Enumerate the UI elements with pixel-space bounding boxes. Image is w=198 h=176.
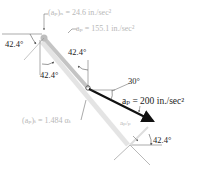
angle-30: 30° bbox=[128, 77, 140, 86]
acceleration-diagram: (aₚ)ₙ = 24.6 in./sec² aₚ = 155.1 in./sec… bbox=[0, 0, 198, 176]
angle-top-left: 42.4° bbox=[5, 40, 23, 49]
tangential-component-line bbox=[42, 42, 128, 145]
label-ap-tangential: (aₚ)ₜ = 1.484 αₜ bbox=[22, 117, 71, 125]
label-ap-total: aₚ = 155.1 in./sec² bbox=[76, 25, 134, 33]
label-aP-relative: aₚ/ₚ bbox=[120, 120, 131, 127]
link-bar bbox=[44, 38, 88, 88]
label-ap-normal: (aₚ)ₙ = 24.6 in./sec² bbox=[48, 9, 111, 17]
angle-mid-lower: 42.4° bbox=[40, 71, 58, 80]
angle-mid-upper: 42.4° bbox=[68, 48, 86, 57]
angle-bottom: 42.4° bbox=[153, 136, 171, 145]
label-aP: aₚ = 200 in./sec² bbox=[122, 97, 184, 107]
